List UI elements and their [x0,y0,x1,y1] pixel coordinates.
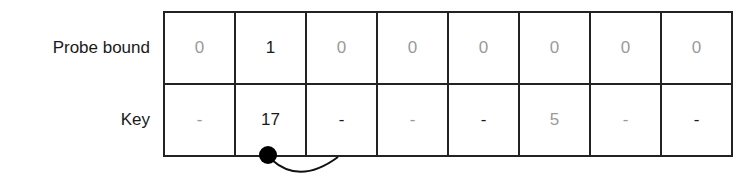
probe-curve-icon [272,157,338,172]
probe-link-arrow [0,0,751,187]
probe-origin-dot-icon [259,146,277,164]
